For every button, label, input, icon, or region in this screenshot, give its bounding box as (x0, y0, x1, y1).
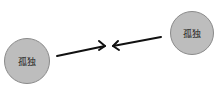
node-label: 孤独 (18, 55, 36, 68)
node-left-solitude: 孤独 (4, 38, 50, 84)
diagram-canvas: 孤独 孤独 (0, 0, 217, 90)
arrow-right-to-center (113, 37, 161, 50)
arrow-left-to-center (57, 41, 105, 56)
node-label: 孤独 (183, 27, 201, 40)
node-right-solitude: 孤独 (170, 11, 214, 55)
